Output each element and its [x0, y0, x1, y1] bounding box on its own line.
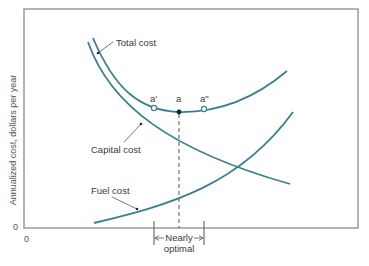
- label-a: a: [176, 93, 182, 104]
- cost-optimization-chart: a' a a" Total cost Capital cost Fuel cos…: [0, 0, 369, 266]
- point-a-prime: [151, 105, 156, 110]
- label-capital-cost: Capital cost: [91, 144, 141, 155]
- total-cost-dot: [97, 52, 100, 55]
- y-axis-label: Annualized cost, dollars per year: [8, 75, 18, 206]
- point-a-double-prime: [201, 106, 206, 111]
- capital-cost-dot: [140, 123, 143, 126]
- point-a: [177, 110, 182, 115]
- label-total-cost: Total cost: [116, 37, 156, 48]
- label-a-prime: a': [150, 93, 157, 104]
- plot-frame: [24, 9, 358, 228]
- y-zero-label: 0: [13, 222, 18, 232]
- label-a-double-prime: a": [200, 93, 209, 104]
- total-cost-leader: [98, 42, 113, 53]
- label-fuel-cost: Fuel cost: [91, 185, 130, 196]
- nearly-label: Nearly: [165, 232, 193, 243]
- capital-cost-leader: [124, 124, 141, 142]
- x-zero-label: 0: [24, 234, 29, 244]
- capital-cost-curve: [88, 42, 290, 184]
- fuel-cost-leader: [112, 197, 137, 209]
- total-cost-curve: [93, 38, 287, 112]
- optimal-label: optimal: [164, 243, 195, 254]
- fuel-cost-curve: [94, 112, 293, 223]
- fuel-cost-dot: [136, 208, 139, 211]
